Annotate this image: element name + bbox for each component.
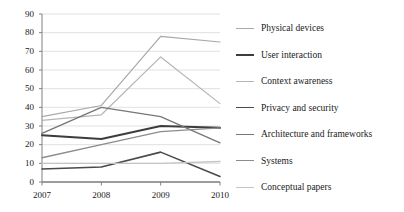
- legend-line-swatch: [236, 187, 254, 188]
- legend-line-swatch: [236, 134, 254, 135]
- x-axis-label: 2009: [139, 191, 183, 200]
- y-axis-label: 40: [8, 103, 34, 112]
- y-axis-label: 90: [8, 10, 34, 19]
- series-line: [42, 36, 220, 116]
- y-axis-label: 20: [8, 140, 34, 149]
- y-axis-label: 70: [8, 47, 34, 56]
- legend-item-label: Conceptual papers: [261, 182, 331, 192]
- legend-item[interactable]: Systems: [236, 154, 293, 168]
- chart-figure: 9080706050403020100 2007200820092010 Phy…: [0, 0, 404, 212]
- legend-item-label: User interaction: [261, 50, 322, 60]
- x-axis-label: 2008: [79, 191, 123, 200]
- legend-item-label: Context awareness: [261, 76, 333, 86]
- y-axis-label: 80: [8, 28, 34, 37]
- legend-item[interactable]: Context awareness: [236, 74, 333, 88]
- legend-item[interactable]: Architecture and frameworks: [236, 127, 372, 141]
- legend-item-label: Systems: [261, 156, 293, 166]
- legend-item[interactable]: User interaction: [236, 48, 322, 62]
- legend-item[interactable]: Physical devices: [236, 21, 324, 35]
- legend-item[interactable]: Privacy and security: [236, 101, 339, 115]
- series-line: [42, 152, 220, 176]
- legend-line-swatch: [236, 107, 254, 108]
- line-chart: 9080706050403020100 2007200820092010: [0, 0, 224, 212]
- legend-item-label: Privacy and security: [261, 103, 339, 113]
- y-axis-label: 0: [8, 178, 34, 187]
- y-axis-label: 30: [8, 122, 34, 131]
- legend-line-swatch: [236, 81, 254, 82]
- x-axis-label: 2007: [20, 191, 64, 200]
- y-axis-label: 60: [8, 66, 34, 75]
- legend-line-swatch: [236, 28, 254, 29]
- legend-item-label: Physical devices: [261, 23, 324, 33]
- legend-item-label: Architecture and frameworks: [261, 129, 372, 139]
- legend-line-swatch: [236, 160, 254, 161]
- series-line: [42, 126, 220, 139]
- y-axis-label: 50: [8, 84, 34, 93]
- legend-item[interactable]: Conceptual papers: [236, 180, 331, 194]
- chart-legend: Physical devicesUser interactionContext …: [236, 0, 404, 212]
- legend-line-swatch: [236, 54, 254, 56]
- y-axis-label: 10: [8, 159, 34, 168]
